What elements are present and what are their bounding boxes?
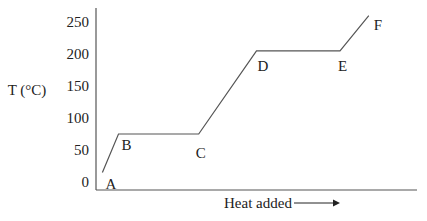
x-axis-label: Heat added bbox=[224, 195, 292, 211]
y-tick-label: 50 bbox=[74, 142, 89, 158]
axes bbox=[96, 8, 417, 190]
point-label-c: C bbox=[196, 145, 206, 161]
y-tick-labels: 050100150200250 bbox=[67, 14, 90, 190]
point-labels: ABCDEF bbox=[105, 17, 382, 193]
y-tick-label: 100 bbox=[67, 110, 90, 126]
y-tick-label: 200 bbox=[67, 46, 90, 62]
point-label-f: F bbox=[374, 17, 382, 33]
point-label-d: D bbox=[258, 58, 269, 74]
heating-curve-chart: 050100150200250 T (°C) Heat added ABCDEF bbox=[0, 0, 427, 221]
series-line bbox=[102, 16, 368, 173]
y-tick-label: 250 bbox=[67, 14, 90, 30]
y-axis-label: T (°C) bbox=[8, 82, 47, 99]
point-label-e: E bbox=[338, 58, 347, 74]
series-group bbox=[102, 16, 368, 173]
y-tick-label: 0 bbox=[82, 174, 90, 190]
point-label-b: B bbox=[121, 137, 131, 153]
arrow-head bbox=[333, 200, 340, 207]
x-axis-arrow-icon bbox=[294, 200, 340, 207]
y-tick-label: 150 bbox=[67, 78, 90, 94]
point-label-a: A bbox=[105, 176, 116, 192]
